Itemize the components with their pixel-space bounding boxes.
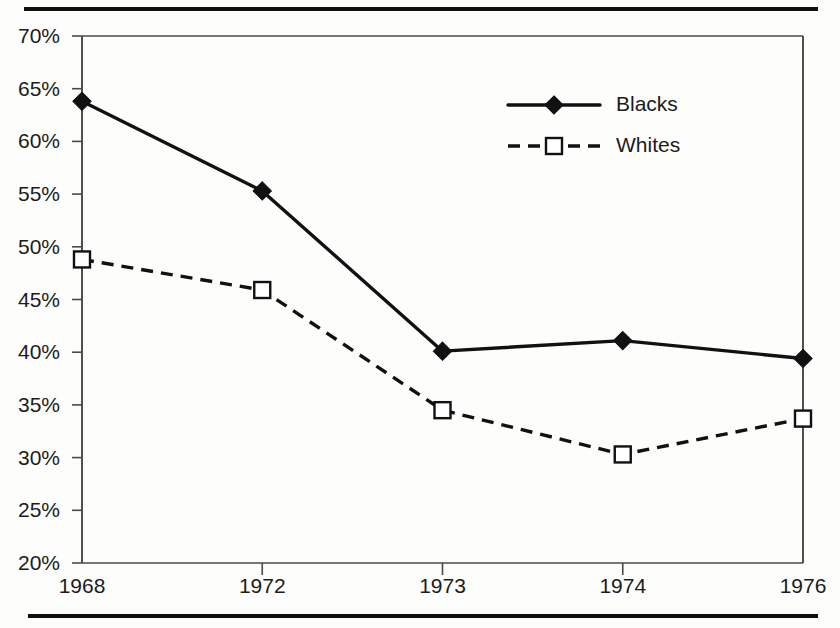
y-tick-label: 55%: [18, 182, 60, 205]
y-tick-label: 35%: [18, 393, 60, 416]
x-tick-label: 1968: [59, 574, 106, 597]
data-point-blacks: [614, 332, 632, 350]
legend-label-blacks: Blacks: [616, 92, 678, 115]
data-point-blacks: [73, 92, 91, 110]
x-tick-label: 1974: [599, 574, 646, 597]
x-axis-tick-labels: 19681972197319741976: [59, 574, 827, 597]
y-tick-label: 40%: [18, 340, 60, 363]
y-tick-label: 25%: [18, 498, 60, 521]
y-tick-label: 30%: [18, 446, 60, 469]
legend-label-whites: Whites: [616, 133, 680, 156]
x-tick-label: 1972: [239, 574, 286, 597]
y-tick-label: 60%: [18, 129, 60, 152]
legend-marker-whites: [546, 138, 562, 154]
y-tick-label: 50%: [18, 235, 60, 258]
y-tick-label: 20%: [18, 551, 60, 574]
data-point-whites: [795, 411, 811, 427]
y-tick-label: 70%: [18, 24, 60, 47]
legend-marker-blacks: [545, 96, 563, 114]
chart-figure: 70%65%60%55%50%45%40%35%30%25%20% 196819…: [0, 0, 840, 628]
x-axis-tick-marks: [82, 36, 803, 575]
chart-legend: BlacksWhites: [508, 92, 680, 156]
y-axis-tick-marks: [72, 36, 82, 563]
y-tick-label: 65%: [18, 77, 60, 100]
data-point-whites: [74, 251, 90, 267]
line-chart-plot: 70%65%60%55%50%45%40%35%30%25%20% 196819…: [0, 0, 840, 628]
data-point-whites: [615, 446, 631, 462]
x-tick-label: 1976: [780, 574, 827, 597]
data-point-whites: [254, 282, 270, 298]
y-tick-label: 45%: [18, 288, 60, 311]
data-point-whites: [435, 402, 451, 418]
data-point-blacks: [794, 350, 812, 368]
y-axis-tick-labels: 70%65%60%55%50%45%40%35%30%25%20%: [18, 24, 60, 574]
x-tick-label: 1973: [419, 574, 466, 597]
series-line-blacks: [82, 101, 803, 358]
